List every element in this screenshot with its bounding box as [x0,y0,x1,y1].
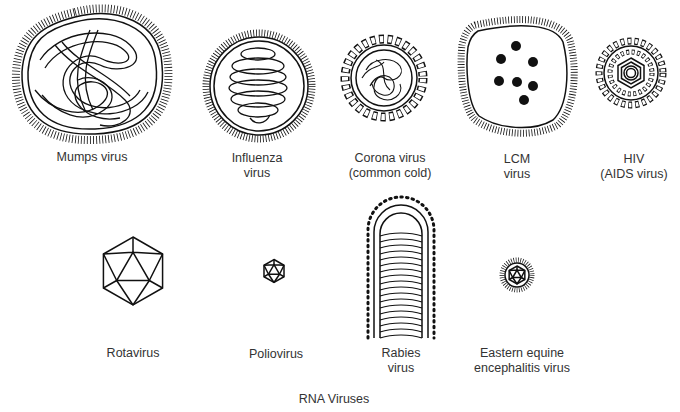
mumps-virus-drawing [16,8,169,140]
hiv-drawing [599,41,663,105]
label-rotavirus: Rotavirus [107,346,160,361]
label-mumps-virus: Mumps virus [57,150,128,165]
eee-virus-drawing [502,260,532,290]
corona-virus-drawing [345,39,423,117]
lcm-virus-drawing [461,20,574,134]
label-hiv: HIV (AIDS virus) [600,152,667,182]
label-eee-virus: Eastern equine encephalitis virus [474,346,570,376]
diagram-title: RNA Viruses [299,392,370,407]
label-rabies-virus: Rabies virus [382,346,421,376]
label-influenza-virus: Influenza virus [232,151,283,181]
influenza-virus-drawing [206,33,312,139]
virus-diagram [0,0,680,412]
label-lcm-virus: LCM virus [504,152,530,182]
label-poliovirus: Poliovirus [249,347,303,362]
rabies-virus-drawing [368,197,434,338]
label-corona-virus: Corona virus (common cold) [349,151,432,181]
poliovirus-drawing [264,260,284,283]
rotavirus-drawing [103,237,162,305]
